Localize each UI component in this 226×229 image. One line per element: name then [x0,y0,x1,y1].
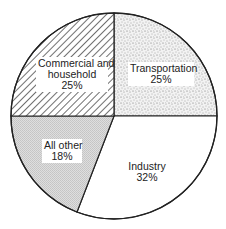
label-all-other-pct: 18% [44,151,80,162]
label-transportation: Transportation 25% [128,62,194,86]
pie-chart [0,0,226,229]
label-industry-pct: 32% [128,172,166,183]
label-all-other: All other 18% [42,139,82,163]
label-transportation-pct: 25% [130,74,192,85]
label-commercial-household: Commercial and household 25% [36,57,108,92]
label-commercial-pct: 25% [38,80,106,91]
label-industry: Industry 32% [126,160,168,184]
